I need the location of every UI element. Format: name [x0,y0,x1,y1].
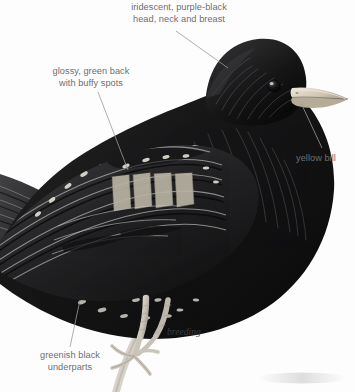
eye [268,80,281,92]
leader-head-neck-breast [176,31,228,68]
annotation-yellow-bill: yellow bill [296,153,354,165]
plumage-caption: breeding [167,326,229,337]
annotation-underparts: greenish black underparts [14,350,126,373]
ground-shadow [258,373,346,384]
annotation-green-back: glossy, green back with buffy spots [22,66,160,89]
illustration-plate: iridescent, purple-black head, neck and … [0,0,355,392]
bill [291,87,348,107]
annotation-head-neck-breast: iridescent, purple-black head, neck and … [86,2,272,25]
head [206,39,306,126]
